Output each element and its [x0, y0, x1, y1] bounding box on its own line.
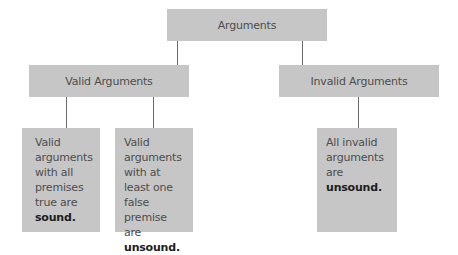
leaf-suffix: .	[378, 181, 382, 194]
connector-valid-to-leaf-2	[153, 97, 154, 128]
leaf-invalid-unsound: All invalid arguments are unsound.	[317, 128, 397, 232]
leaf-emphasis: unsound	[124, 241, 176, 254]
leaf-text: Valid arguments with all premises true a…	[35, 136, 93, 209]
root-label: Arguments	[218, 19, 277, 32]
invalid-arguments-node: Invalid Arguments	[279, 65, 439, 97]
valid-arguments-label: Valid Arguments	[65, 75, 152, 88]
leaf-emphasis: unsound	[326, 181, 378, 194]
connector-invalid-to-leaf-1	[358, 97, 359, 128]
connector-root-to-invalid	[302, 41, 303, 65]
leaf-text: All invalid arguments are	[326, 136, 384, 179]
leaf-suffix: .	[72, 211, 76, 224]
invalid-arguments-label: Invalid Arguments	[311, 75, 408, 88]
connector-root-to-valid	[177, 41, 178, 65]
leaf-valid-unsound: Valid arguments with at least one false …	[115, 128, 193, 232]
valid-arguments-node: Valid Arguments	[29, 65, 189, 97]
leaf-suffix: .	[176, 241, 180, 254]
root-node: Arguments	[167, 9, 327, 41]
leaf-valid-sound: Valid arguments with all premises true a…	[22, 128, 100, 232]
connector-valid-to-leaf-1	[66, 97, 67, 128]
leaf-text: Valid arguments with at least one false …	[124, 136, 182, 239]
leaf-emphasis: sound	[35, 211, 72, 224]
